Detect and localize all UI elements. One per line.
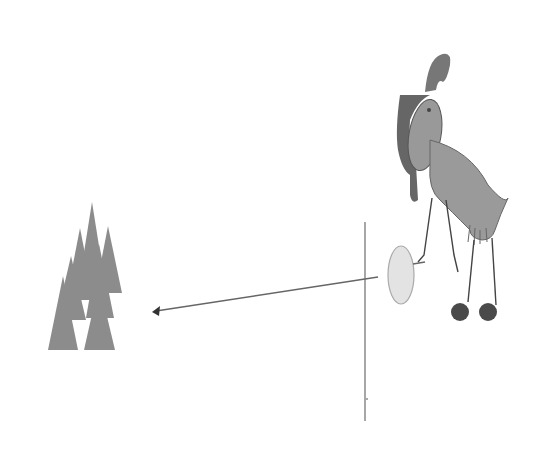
tree-cluster	[48, 202, 122, 350]
bird-eye	[427, 108, 431, 112]
arrowhead-icon	[152, 306, 160, 316]
bird-leg-front	[418, 198, 432, 262]
bird-crest	[425, 54, 450, 92]
bird-foot-right	[479, 303, 497, 321]
racket-handle	[413, 262, 425, 264]
bird-leg-back1	[468, 240, 474, 302]
bird-body	[430, 140, 508, 240]
racket	[388, 246, 414, 304]
diagram-canvas	[0, 0, 552, 461]
bird-foot-left	[451, 303, 469, 321]
arrow	[152, 277, 378, 316]
bird-leg-back2	[492, 238, 496, 305]
diagram-svg	[0, 0, 552, 461]
